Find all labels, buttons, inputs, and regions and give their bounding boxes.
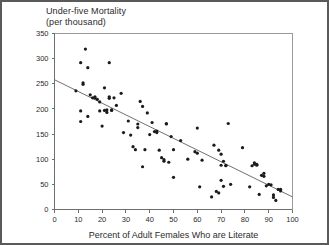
data-point bbox=[108, 95, 111, 98]
data-point bbox=[131, 145, 134, 148]
data-point bbox=[220, 153, 223, 156]
data-point bbox=[227, 122, 230, 125]
data-point bbox=[262, 172, 265, 175]
data-points bbox=[74, 47, 282, 202]
scatter-plot: 0501001502002503003500102030405060708090… bbox=[2, 2, 329, 245]
y-tick-label: 350 bbox=[36, 29, 49, 38]
data-point bbox=[196, 152, 199, 155]
data-point bbox=[217, 149, 220, 152]
chart-canvas: Under-five Mortality (per thousand) 0501… bbox=[2, 2, 327, 243]
data-point bbox=[141, 165, 144, 168]
plot-frame bbox=[55, 34, 293, 210]
data-point bbox=[158, 149, 161, 152]
data-point bbox=[248, 185, 251, 188]
x-tick-label: 10 bbox=[74, 215, 82, 224]
data-point bbox=[222, 185, 225, 188]
data-point bbox=[224, 164, 227, 167]
data-point bbox=[143, 148, 146, 151]
data-point bbox=[139, 100, 142, 103]
data-point bbox=[146, 111, 149, 114]
data-point bbox=[127, 119, 130, 122]
data-point bbox=[74, 89, 77, 92]
data-point bbox=[167, 161, 170, 164]
y-tick-label: 100 bbox=[36, 155, 49, 164]
data-point bbox=[112, 96, 115, 99]
data-point bbox=[105, 108, 108, 111]
data-point bbox=[262, 175, 265, 178]
data-point bbox=[136, 122, 139, 125]
data-point bbox=[220, 179, 223, 182]
trend-line bbox=[55, 80, 293, 197]
data-point bbox=[81, 81, 84, 84]
data-point bbox=[115, 104, 118, 107]
data-point bbox=[274, 199, 277, 202]
data-point bbox=[165, 122, 168, 125]
x-tick-label: 30 bbox=[122, 215, 130, 224]
data-point bbox=[122, 131, 125, 134]
axis-ticks bbox=[52, 34, 293, 213]
data-point bbox=[217, 191, 220, 194]
y-tick-label: 200 bbox=[36, 105, 49, 114]
x-tick-label: 40 bbox=[146, 215, 154, 224]
data-point bbox=[79, 61, 82, 64]
y-tick-label: 300 bbox=[36, 54, 49, 63]
x-tick-label: 0 bbox=[52, 215, 56, 224]
data-point bbox=[84, 47, 87, 50]
data-point bbox=[134, 148, 137, 151]
regression-line bbox=[55, 80, 293, 197]
data-point bbox=[210, 195, 213, 198]
data-point bbox=[198, 185, 201, 188]
data-point bbox=[79, 120, 82, 123]
data-point bbox=[96, 98, 99, 101]
data-point bbox=[98, 100, 101, 103]
x-tick-label: 80 bbox=[241, 215, 249, 224]
data-point bbox=[200, 159, 203, 162]
data-point bbox=[269, 183, 272, 186]
x-tick-label: 90 bbox=[265, 215, 273, 224]
data-point bbox=[86, 115, 89, 118]
data-point bbox=[120, 92, 123, 95]
data-point bbox=[222, 160, 225, 163]
data-point bbox=[186, 158, 189, 161]
data-point bbox=[136, 126, 139, 129]
data-point bbox=[98, 109, 101, 112]
data-point bbox=[255, 163, 258, 166]
data-point bbox=[103, 86, 106, 89]
y-tick-label: 50 bbox=[40, 180, 48, 189]
data-point bbox=[155, 131, 158, 134]
data-point bbox=[141, 105, 144, 108]
data-point bbox=[110, 108, 113, 111]
data-point bbox=[170, 135, 173, 138]
data-point bbox=[172, 176, 175, 179]
y-tick-label: 0 bbox=[44, 205, 48, 214]
data-point bbox=[272, 196, 275, 199]
data-point bbox=[108, 61, 111, 64]
x-tick-label: 60 bbox=[193, 215, 201, 224]
data-point bbox=[79, 109, 82, 112]
chart-figure: Under-five Mortality (per thousand) 0501… bbox=[0, 0, 329, 245]
data-point bbox=[279, 189, 282, 192]
x-tick-label: 20 bbox=[98, 215, 106, 224]
data-point bbox=[220, 164, 223, 167]
x-tick-label: 70 bbox=[217, 215, 225, 224]
data-point bbox=[179, 139, 182, 142]
data-point bbox=[101, 124, 104, 127]
data-point bbox=[229, 183, 232, 186]
data-point bbox=[241, 146, 244, 149]
data-point bbox=[150, 121, 153, 124]
data-point bbox=[129, 133, 132, 136]
data-point bbox=[172, 148, 175, 151]
data-point bbox=[86, 66, 89, 69]
x-axis-title: Percent of Adult Females Who are Literat… bbox=[89, 230, 259, 240]
y-tick-label: 150 bbox=[36, 130, 49, 139]
x-tick-label: 100 bbox=[286, 215, 299, 224]
data-point bbox=[258, 193, 261, 196]
y-tick-label: 250 bbox=[36, 79, 49, 88]
data-point bbox=[212, 144, 215, 147]
data-point bbox=[162, 160, 165, 163]
data-point bbox=[196, 126, 199, 129]
data-point bbox=[89, 93, 92, 96]
data-point bbox=[148, 133, 151, 136]
x-tick-label: 50 bbox=[169, 215, 177, 224]
